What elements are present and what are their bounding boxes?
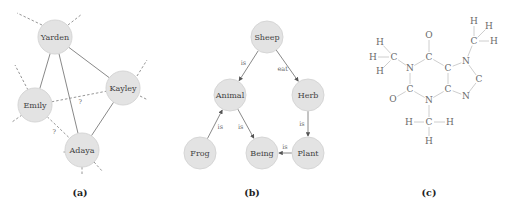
node-emily: Emily	[18, 88, 52, 122]
atom-h: H	[425, 136, 433, 146]
atom-n: N	[425, 95, 433, 105]
bond-n7-cm7	[468, 46, 472, 57]
atom-o: O	[425, 30, 432, 40]
node-label: Adaya	[69, 146, 95, 155]
bond-n1-cm1	[398, 60, 406, 65]
edge-label: ?	[53, 128, 57, 136]
atoms-c: OCNCONCCNCNCHHHCHHHCHHH	[369, 16, 498, 146]
figure-canvas: ?? YardenKayleyEmilyAdaya (a) iseatisisi…	[0, 0, 511, 209]
atom-h: H	[405, 117, 413, 127]
node-label: Being	[250, 149, 273, 158]
edge-yarden-adaya	[59, 54, 78, 134]
atom-h: H	[490, 36, 498, 46]
bond-c2-n3	[414, 92, 424, 98]
nodes-a: YardenKayleyEmilyAdaya	[18, 20, 140, 167]
atom-h: H	[369, 52, 377, 62]
bond-c1-n1	[414, 60, 424, 66]
node-label: Herb	[298, 91, 319, 100]
edge-label: eat	[277, 65, 288, 73]
node-yarden: Yarden	[38, 20, 72, 54]
node-label: Kayley	[109, 84, 137, 93]
node-sheep: Sheep	[251, 21, 283, 53]
panel-a-social-graph: ?? YardenKayleyEmilyAdaya (a)	[12, 13, 148, 198]
node-kayley: Kayley	[106, 71, 140, 105]
atom-c: C	[445, 84, 452, 94]
node-label: Sheep	[254, 33, 279, 42]
caption-a: (a)	[72, 187, 87, 198]
edge-label: is	[218, 123, 223, 131]
caption-c: (c)	[422, 187, 437, 198]
edge-emily-adaya	[47, 117, 69, 138]
node-label: Yarden	[40, 33, 69, 42]
atom-c: C	[407, 84, 414, 94]
node-label: Frog	[190, 149, 209, 158]
edge-label: is	[238, 123, 243, 131]
atom-c: C	[426, 117, 433, 127]
edge-kayley-adaya	[91, 102, 113, 136]
nodes-b: SheepAnimalHerbFrogBeingPlant	[184, 21, 324, 169]
node-label: Animal	[215, 91, 245, 100]
bond-c2-o2	[397, 92, 405, 97]
atom-h: H	[485, 21, 493, 31]
node-adaya: Adaya	[65, 133, 99, 167]
edge-label: ?	[78, 98, 82, 106]
atom-h: H	[446, 117, 454, 127]
edge-label: is	[241, 59, 246, 67]
atom-c: C	[471, 36, 478, 46]
atom-c: C	[426, 52, 433, 62]
node-label: Plant	[297, 149, 319, 158]
bond-n3-c4	[433, 92, 443, 98]
atom-h: H	[470, 16, 478, 26]
node-being: Being	[246, 137, 278, 169]
atom-h: H	[376, 37, 384, 47]
atom-c: C	[445, 63, 452, 73]
edge-label: is	[282, 143, 287, 151]
atom-c: C	[476, 74, 483, 84]
atom-n: N	[462, 91, 470, 101]
bond-cm1-h1a	[383, 46, 390, 54]
panel-b-semantic-network: iseatisisisis SheepAnimalHerbFrogBeingPl…	[184, 21, 324, 198]
atom-o: O	[389, 94, 396, 104]
node-herb: Herb	[292, 79, 324, 111]
edge-yarden-kayley	[69, 47, 110, 78]
caption-b: (b)	[244, 187, 260, 198]
bond-c5-n7	[453, 63, 462, 66]
edge-yarden-emily	[40, 53, 50, 88]
node-frog: Frog	[184, 137, 216, 169]
bond-c5-c1	[433, 60, 443, 66]
panel-c-molecule: OCNCONCCNCNCHHHCHHHCHHH (c)	[369, 16, 498, 198]
atom-n: N	[462, 56, 470, 66]
bond-c8-n9	[469, 83, 476, 92]
node-plant: Plant	[292, 137, 324, 169]
bond-cm1-h1c	[384, 61, 391, 68]
node-animal: Animal	[214, 79, 246, 111]
node-label: Emily	[23, 101, 47, 110]
atom-h: H	[376, 66, 384, 76]
edges-a: ??	[40, 47, 114, 138]
atom-n: N	[406, 63, 414, 73]
edge-label: is	[299, 120, 304, 128]
atom-c: C	[391, 52, 398, 62]
bond-n9-c4	[453, 91, 462, 94]
